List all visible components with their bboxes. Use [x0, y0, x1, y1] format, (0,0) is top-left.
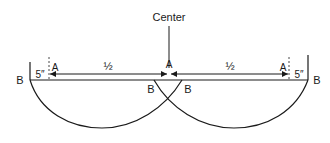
semicircle-layout-diagram: Center B B 5″ 5″ A A A ½ ½ B B — [0, 0, 330, 143]
left-half-label: ½ — [103, 60, 112, 72]
left-edge-b-label: B — [16, 74, 23, 86]
left-offset-label: 5″ — [35, 69, 45, 80]
right-point-a-label: A — [280, 62, 287, 73]
diagram-svg: Center B B 5″ 5″ A A A ½ ½ B B — [0, 0, 330, 143]
center-point-a-label: A — [166, 59, 173, 70]
left-point-a-label: A — [52, 62, 59, 73]
right-edge-b-label: B — [313, 74, 320, 86]
right-arc-end-b-label: B — [184, 83, 191, 95]
right-offset-label: 5″ — [294, 69, 304, 80]
right-half-label: ½ — [225, 60, 234, 72]
left-arc-end-b-label: B — [147, 83, 154, 95]
center-label: Center — [152, 11, 185, 23]
